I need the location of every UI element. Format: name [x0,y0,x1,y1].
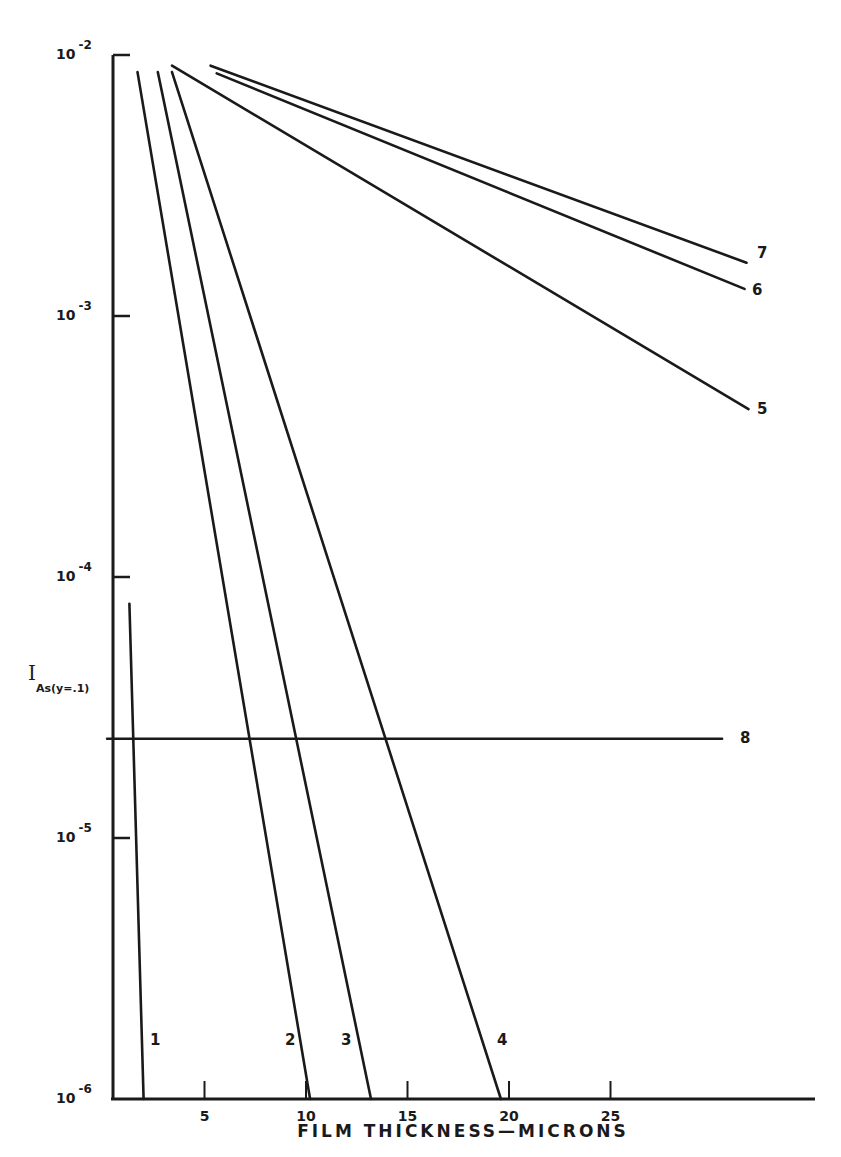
axes: 10-210-310-410-510-6510152025FILM THICKN… [28,38,815,1141]
series-line-6 [217,73,745,289]
y-tick-label: 10-6 [56,1082,92,1106]
series-label-3: 3 [341,1031,351,1049]
series-label-1: 1 [150,1031,160,1049]
series-label-7: 7 [757,244,767,262]
y-axis-subscript: As(y=.1) [36,682,89,695]
y-tick-label: 10-2 [56,38,92,62]
series-label-2: 2 [285,1031,295,1049]
series-line-2 [138,72,311,1099]
y-tick-label: 10-5 [56,821,92,845]
series-line-3 [158,72,371,1099]
series-lines [107,66,748,1099]
y-axis-title: I [28,661,36,685]
y-tick-label: 10-3 [56,299,92,323]
series-line-7 [211,66,747,263]
log-intensity-vs-film-thickness-chart: 10-210-310-410-510-6510152025FILM THICKN… [0,0,841,1157]
series-line-1 [129,604,143,1099]
x-axis-title: FILM THICKNESS—MICRONS [297,1121,629,1141]
y-tick-label: 10-4 [56,560,92,584]
x-tick-label: 5 [200,1108,210,1124]
series-label-5: 5 [757,400,767,418]
series-label-8: 8 [740,729,750,747]
series-label-4: 4 [497,1031,507,1049]
series-line-4 [172,72,501,1099]
series-label-6: 6 [752,281,762,299]
series-line-5 [172,66,749,409]
